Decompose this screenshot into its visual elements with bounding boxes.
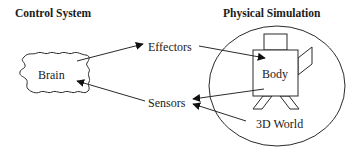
sensors-label: Sensors <box>148 96 186 110</box>
robot-arm <box>298 47 312 75</box>
effectors-label: Effectors <box>148 40 192 54</box>
world-label: 3D World <box>256 117 303 131</box>
brain-label: Brain <box>38 68 65 82</box>
control-system-title: Control System <box>15 7 92 20</box>
robot-head <box>264 34 287 50</box>
robot-right-leg <box>280 96 299 109</box>
body-label: Body <box>262 67 288 81</box>
arrow-brain-to-effectors <box>77 44 143 61</box>
robot-left-leg <box>253 96 272 109</box>
architecture-diagram: Control System Physical Simulation Brain… <box>0 0 360 149</box>
physical-simulation-title: Physical Simulation <box>223 7 321 20</box>
